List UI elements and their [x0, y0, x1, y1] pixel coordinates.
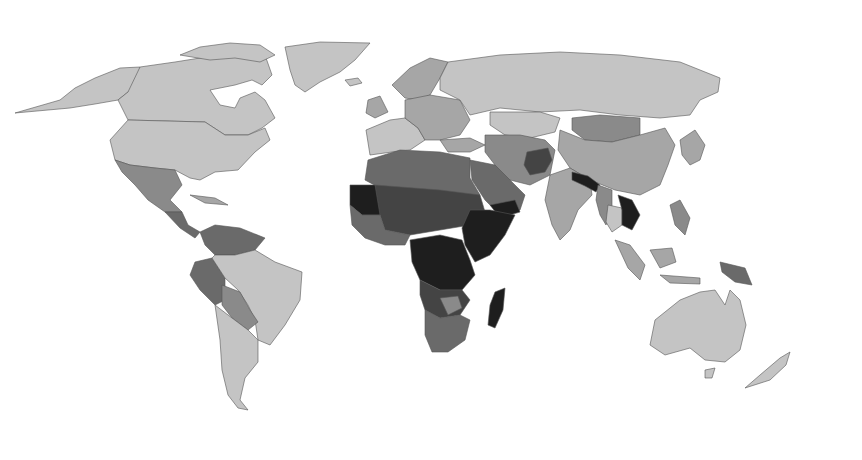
region-russia[interactable]	[440, 52, 720, 118]
world-choropleth-map	[0, 0, 862, 460]
